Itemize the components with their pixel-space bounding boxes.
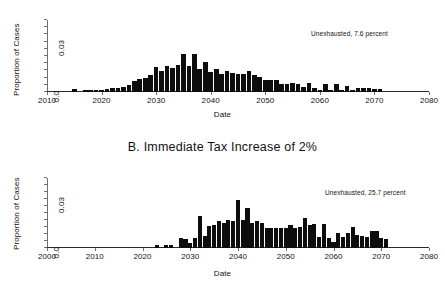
bar xyxy=(255,221,259,248)
bar xyxy=(241,220,245,248)
y-tick xyxy=(44,177,47,178)
bar xyxy=(274,80,279,92)
bar xyxy=(94,90,99,92)
bar xyxy=(121,87,126,92)
bar xyxy=(183,239,187,248)
bar xyxy=(132,81,137,92)
y-tick xyxy=(44,247,47,248)
bar xyxy=(296,84,301,92)
bar xyxy=(293,228,297,248)
x-tick xyxy=(211,92,212,95)
x-tick xyxy=(265,92,266,95)
y-tick xyxy=(44,205,47,206)
x-tick-label: 2060 xyxy=(311,96,329,105)
bar xyxy=(88,90,93,92)
y-tick xyxy=(44,41,47,42)
bar xyxy=(181,54,186,92)
panel-b-title: B. Immediate Tax Increase of 2% xyxy=(0,140,445,154)
bar xyxy=(356,88,361,92)
bar xyxy=(327,238,331,248)
bar xyxy=(247,71,252,92)
x-tick-label: 2030 xyxy=(147,96,165,105)
panel-b-annotation: Unexhausted, 25.7 percent xyxy=(325,189,406,196)
y-tick xyxy=(44,233,47,234)
y-tick xyxy=(44,19,47,20)
bar xyxy=(339,90,344,92)
bar xyxy=(290,83,295,92)
bar xyxy=(323,84,328,92)
panel-b-plot-area: 200020102020203020402050206020702080 0.0… xyxy=(47,170,429,248)
bar xyxy=(250,223,254,248)
bar xyxy=(226,220,230,248)
bar xyxy=(154,67,159,92)
bar xyxy=(230,73,235,92)
bar xyxy=(127,85,132,92)
bar xyxy=(208,72,213,92)
bar xyxy=(179,238,183,248)
y-tick xyxy=(44,91,47,92)
y-tick xyxy=(44,48,47,49)
x-tick xyxy=(102,92,103,95)
bar xyxy=(351,227,355,248)
panel-b-y-axis-title: Proportion of Cases xyxy=(12,177,21,250)
figure-root: Proportion of Cases 20102020203020402050… xyxy=(0,0,445,289)
bar xyxy=(170,68,175,92)
bar xyxy=(236,74,241,92)
bar xyxy=(257,77,262,92)
bar xyxy=(374,231,378,248)
x-tick-label: 2070 xyxy=(365,96,383,105)
y-tick-label: 0.03 xyxy=(57,40,66,56)
y-tick xyxy=(44,77,47,78)
bar xyxy=(284,228,288,248)
bar xyxy=(197,69,202,92)
x-tick-label: 2030 xyxy=(181,252,199,261)
x-tick xyxy=(190,248,191,251)
bar xyxy=(312,88,317,92)
x-tick-label: 2080 xyxy=(420,96,438,105)
x-tick-label: 2020 xyxy=(133,252,151,261)
bar xyxy=(245,208,249,248)
x-tick-label: 2050 xyxy=(256,96,274,105)
y-tick xyxy=(44,226,47,227)
bar xyxy=(288,225,292,248)
bar xyxy=(378,89,383,92)
panel-a-bars xyxy=(47,12,429,92)
y-tick xyxy=(44,62,47,63)
panel-a-plot-area: 20102020203020402050206020702080 0.00.03 xyxy=(47,12,429,92)
bar xyxy=(217,221,221,248)
bar xyxy=(72,89,77,92)
bar xyxy=(83,90,88,92)
bar xyxy=(236,200,240,248)
bar xyxy=(322,224,326,248)
bar xyxy=(268,80,273,92)
bar xyxy=(379,238,383,248)
x-tick-label: 2060 xyxy=(324,252,342,261)
y-tick xyxy=(44,55,47,56)
x-tick xyxy=(238,248,239,251)
bar xyxy=(303,218,307,248)
bar xyxy=(367,88,372,92)
bar xyxy=(164,245,168,248)
x-tick xyxy=(320,92,321,95)
bar xyxy=(110,88,115,92)
bar xyxy=(241,74,246,92)
y-tick xyxy=(44,33,47,34)
bar xyxy=(384,239,388,248)
bar xyxy=(252,75,257,92)
bar xyxy=(334,84,339,92)
y-tick xyxy=(44,69,47,70)
x-tick xyxy=(95,248,96,251)
x-tick-label: 2040 xyxy=(229,252,247,261)
y-tick-label: 0.0 xyxy=(52,247,61,258)
y-tick-label: 0.03 xyxy=(57,197,66,213)
y-tick-label: 0.0 xyxy=(52,91,61,102)
bar xyxy=(274,228,278,248)
bar xyxy=(355,235,359,248)
x-tick-label: 2080 xyxy=(420,252,438,261)
x-tick-label: 2070 xyxy=(372,252,390,261)
x-tick-label: 2040 xyxy=(202,96,220,105)
x-tick xyxy=(286,248,287,251)
bar xyxy=(341,237,345,248)
x-tick xyxy=(143,248,144,251)
bar xyxy=(203,62,208,92)
